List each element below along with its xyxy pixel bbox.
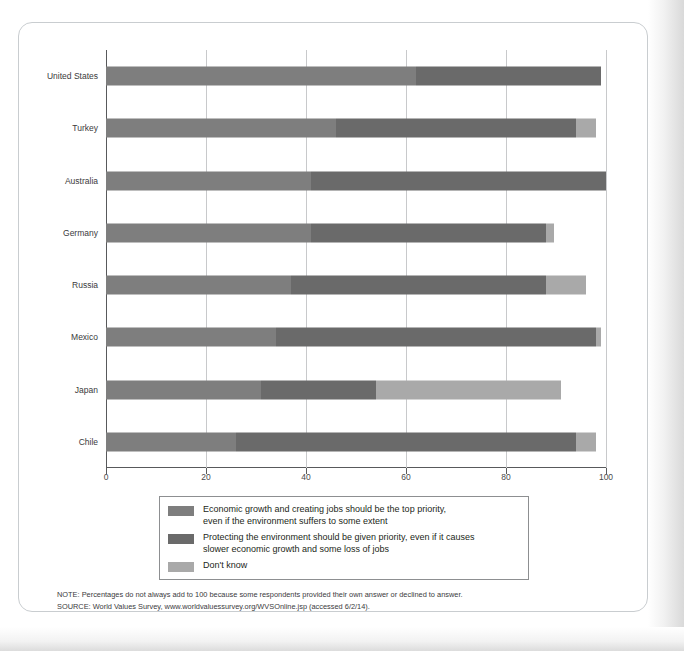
stacked-bar [106,171,606,190]
bar-segment-economic-growth [106,171,311,190]
stacked-bar [106,67,601,86]
legend-swatch-icon [168,534,194,544]
legend-label: Don't know [203,560,247,572]
bar-segment-economic-growth [106,380,261,399]
bar-segment-don-t-know [576,432,596,451]
page-edge-shading-bottom [0,627,684,651]
chart-row: Germany [106,207,606,259]
x-tick-label: 40 [301,472,310,482]
figure-card: 020406080100 United StatesTurkeyAustrali… [18,22,648,612]
legend-label-line: Economic growth and creating jobs should… [203,504,446,516]
bar-segment-protect-environment [311,171,606,190]
x-tick-label: 100 [599,472,613,482]
legend-label: Protecting the environment should be giv… [203,532,474,555]
chart-row: Japan [106,364,606,416]
bar-segment-protect-environment [416,67,601,86]
bar-segment-economic-growth [106,432,236,451]
legend-label-line: Protecting the environment should be giv… [203,532,474,544]
page-edge-shading-right [648,0,684,651]
category-label: Chile [79,437,98,447]
stacked-bar [106,432,596,451]
chart-legend: Economic growth and creating jobs should… [159,496,529,580]
bar-segment-don-t-know [596,328,601,347]
x-tick-label: 20 [201,472,210,482]
bar-segment-don-t-know [546,276,586,295]
bar-segment-economic-growth [106,119,336,138]
bar-segment-economic-growth [106,328,276,347]
legend-label: Economic growth and creating jobs should… [203,504,446,527]
bar-segment-don-t-know [576,119,596,138]
stacked-bar [106,328,601,347]
x-tick-label: 60 [401,472,410,482]
chart-row: Chile [106,416,606,468]
figure-notes: NOTE: Percentages do not always add to 1… [57,589,577,613]
stacked-bar [106,119,596,138]
category-label: Russia [72,280,98,290]
legend-item[interactable]: Don't know [168,560,520,572]
legend-swatch-icon [168,506,194,516]
category-label: Turkey [72,123,98,133]
legend-label-line: slower economic growth and some loss of … [203,544,474,556]
gridline-100 [606,50,607,468]
category-label: Mexico [71,332,98,342]
bar-segment-economic-growth [106,67,416,86]
stacked-bar [106,276,586,295]
category-label: Australia [65,176,98,186]
stacked-bar [106,380,561,399]
legend-item[interactable]: Protecting the environment should be giv… [168,532,520,555]
source-text: SOURCE: World Values Survey, www.worldva… [57,601,577,613]
bar-segment-protect-environment [291,276,546,295]
chart-plot-area: 020406080100 United StatesTurkeyAustrali… [106,50,606,468]
chart-row: Mexico [106,311,606,363]
chart-row: United States [106,50,606,102]
bar-segment-protect-environment [276,328,596,347]
note-text: NOTE: Percentages do not always add to 1… [57,589,577,601]
chart-row: Russia [106,259,606,311]
chart-row: Turkey [106,102,606,154]
stacked-bar [106,223,554,242]
bar-segment-protect-environment [261,380,376,399]
legend-label-line: Don't know [203,560,247,572]
bar-segment-economic-growth [106,223,311,242]
bar-segment-protect-environment [311,223,546,242]
category-label: Germany [63,228,98,238]
legend-label-line: even if the environment suffers to some … [203,516,446,528]
category-label: Japan [75,385,98,395]
bar-segment-economic-growth [106,276,291,295]
bar-segment-don-t-know [376,380,561,399]
category-label: United States [47,71,98,81]
chart-row: Australia [106,155,606,207]
x-tick-label: 80 [501,472,510,482]
bar-segment-protect-environment [236,432,576,451]
legend-swatch-icon [168,562,194,572]
legend-item[interactable]: Economic growth and creating jobs should… [168,504,520,527]
bar-segment-protect-environment [336,119,576,138]
bar-segment-don-t-know [546,223,554,242]
x-tick-label: 0 [104,472,109,482]
